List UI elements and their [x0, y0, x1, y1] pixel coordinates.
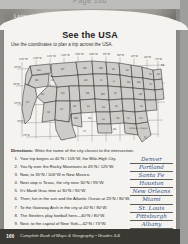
svg-text:MI: MI	[126, 69, 129, 72]
svg-text:35°N: 35°N	[14, 102, 21, 105]
svg-text:TX: TX	[83, 130, 86, 133]
question-row: 3.Now, to 35°N / 106°W in New Mexico. Sa…	[11, 171, 173, 179]
svg-text:120°W: 120°W	[33, 57, 42, 60]
svg-text:90°W: 90°W	[117, 54, 125, 57]
svg-text:ND: ND	[83, 67, 87, 70]
question-text: Your trip begins at 40°N / 105°W, the Mi…	[20, 156, 116, 161]
svg-text:VA: VA	[149, 83, 152, 86]
svg-text:25°N: 25°N	[23, 134, 30, 137]
directions-line: Directions: Write the name of the city c…	[11, 148, 173, 153]
svg-text:PA: PA	[149, 73, 152, 76]
svg-text:30°N: 30°N	[17, 120, 24, 123]
svg-text:ME: ME	[161, 64, 165, 67]
svg-text:NC: NC	[139, 93, 143, 96]
question-number: 7.	[11, 204, 18, 212]
directions-label: Directions:	[11, 148, 33, 153]
svg-text:WY: WY	[61, 92, 65, 95]
question-text: Then, fun in the sun and the Atlantic Oc…	[20, 196, 130, 201]
question-text: Now, to 35°N / 106°W in New Mexico.	[20, 172, 90, 177]
question-row: 9.Next, to the capital of New York—42°N …	[11, 220, 173, 228]
worksheet-sheet: See the USA Use the coordinates to plan …	[4, 24, 176, 229]
svg-text:WV: WV	[137, 81, 141, 84]
question-number: 2.	[11, 163, 18, 171]
svg-text:NV: NV	[41, 93, 45, 96]
svg-text:CA: CA	[26, 101, 30, 104]
svg-text:AZ: AZ	[47, 111, 51, 114]
svg-text:75°W: 75°W	[155, 58, 163, 61]
svg-text:125°W: 125°W	[19, 58, 28, 61]
svg-text:95°W: 95°W	[103, 53, 111, 56]
footer-source: Complete Book of Maps & Geography • Grad…	[20, 233, 120, 239]
svg-text:OH: OH	[127, 81, 131, 84]
svg-text:WA: WA	[37, 69, 41, 72]
page-title: See the USA	[4, 30, 176, 40]
svg-text:SD: SD	[84, 79, 87, 82]
question-list: 1.Your trip begins at 40°N / 105°W, the …	[11, 155, 173, 228]
svg-text:WI: WI	[112, 68, 115, 71]
question-row: 2.You fly over the Rocky Mountains to 45…	[11, 163, 173, 171]
svg-text:LA: LA	[102, 118, 105, 121]
svg-text:MN: MN	[99, 67, 103, 70]
question-row: 8.The Steelers play football here—40°N /…	[11, 212, 173, 220]
svg-text:SC: SC	[140, 105, 143, 108]
question-number: 4.	[11, 179, 18, 187]
svg-text:ID: ID	[51, 79, 54, 82]
svg-text:NM: NM	[74, 117, 78, 120]
svg-text:TN: TN	[116, 117, 119, 120]
question-number: 8.	[11, 212, 18, 220]
svg-text:NE: NE	[86, 92, 90, 95]
svg-text:115°W: 115°W	[47, 55, 56, 58]
question-row: 5.It's Mardi Gras time at 30°N / 90°W. N…	[11, 187, 173, 195]
page-footer: 166 Complete Book of Maps & Geography • …	[0, 229, 180, 244]
svg-text:100°W: 100°W	[89, 53, 98, 56]
page-top-cutoff: Page 166	[0, 0, 180, 9]
svg-text:110°W: 110°W	[61, 54, 70, 57]
svg-text:AR: AR	[102, 106, 106, 109]
worksheet-page: Page 166 Latitude and Longitude See the …	[0, 0, 180, 244]
svg-text:MT: MT	[61, 68, 65, 71]
question-number: 5.	[11, 187, 18, 195]
svg-text:40°N: 40°N	[13, 83, 20, 86]
svg-text:105°W: 105°W	[75, 53, 84, 56]
question-row: 1.Your trip begins at 40°N / 105°W, the …	[11, 155, 173, 163]
question-row: 7.To the Gateway Arch in the city at 40°…	[11, 204, 173, 212]
svg-text:OK: OK	[88, 117, 92, 120]
answer-field[interactable]: Albany	[130, 220, 173, 229]
question-number: 9.	[11, 220, 18, 228]
directions-text: Write the name of the city closest to th…	[35, 148, 135, 153]
question-number: 1.	[11, 155, 18, 163]
question-text: It's Mardi Gras time at 30°N / 90°W.	[20, 188, 86, 193]
question-text: The Steelers play football here—40°N / 8…	[20, 213, 105, 218]
svg-text:85°W: 85°W	[131, 55, 139, 58]
svg-text:IN: IN	[114, 92, 117, 95]
page-right-edge	[176, 9, 180, 229]
question-text: Next stop is Texas, the city near 30°N /…	[20, 180, 104, 185]
usa-map: 125°W120°W115°W 110°W105°W100°W 95°W90°W…	[13, 49, 168, 145]
question-text: Next, to the capital of New York—42°N / …	[20, 221, 106, 226]
svg-text:GA: GA	[139, 117, 143, 120]
svg-text:CO: CO	[73, 105, 77, 108]
svg-text:Atlantic Ocean: Atlantic Ocean	[128, 127, 148, 130]
svg-text:OR: OR	[35, 79, 39, 82]
question-number: 3.	[11, 171, 18, 179]
svg-text:MO: MO	[101, 93, 105, 96]
question-number: 6.	[11, 195, 18, 203]
svg-text:45°N: 45°N	[14, 66, 21, 69]
question-row: 6.Then, fun in the sun and the Atlantic …	[11, 195, 173, 203]
question-row: 4.Next stop is Texas, the city near 30°N…	[11, 179, 173, 187]
footer-page-number: 166	[6, 233, 14, 239]
svg-text:MS: MS	[113, 128, 117, 131]
svg-text:80°W: 80°W	[144, 56, 152, 59]
page-top-cutoff-text: Page 166	[0, 0, 180, 4]
question-text: To the Gateway Arch in the city at 40°N …	[20, 205, 107, 210]
worksheet-subtitle: Use the coordinates to plan a trip acros…	[11, 42, 171, 48]
question-text: You fly over the Rocky Mountains to 45°N…	[20, 164, 114, 169]
